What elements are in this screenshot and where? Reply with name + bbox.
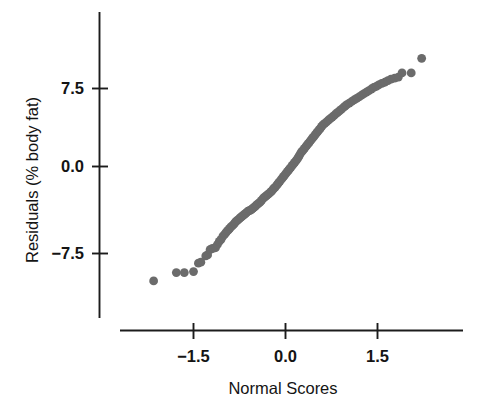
qq-plot-figure: 7.5 0.0 −7.5 −1.5 0.0 1.5 Normal Scores … bbox=[0, 0, 485, 416]
data-point bbox=[149, 277, 158, 286]
y-tick-label-0.0: 0.0 bbox=[61, 157, 84, 175]
x-tick-label--1.5: −1.5 bbox=[177, 347, 210, 365]
y-tick-label-7.5: 7.5 bbox=[61, 79, 84, 97]
x-axis-title: Normal Scores bbox=[228, 379, 337, 397]
scatter-points-group bbox=[149, 54, 426, 285]
y-tick-label--7.5: −7.5 bbox=[51, 244, 84, 262]
data-point bbox=[417, 54, 426, 63]
y-axis-title: Residuals (% body fat) bbox=[23, 97, 41, 263]
data-point bbox=[407, 69, 416, 78]
data-point bbox=[180, 268, 189, 277]
x-tick-label-1.5: 1.5 bbox=[366, 347, 389, 365]
data-point bbox=[189, 267, 198, 276]
data-point bbox=[398, 69, 407, 78]
x-tick-label-0.0: 0.0 bbox=[274, 347, 297, 365]
plot-canvas: 7.5 0.0 −7.5 −1.5 0.0 1.5 Normal Scores … bbox=[0, 0, 485, 416]
data-point bbox=[172, 268, 181, 277]
